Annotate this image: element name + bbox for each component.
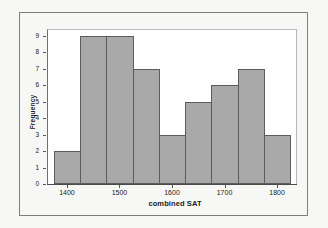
x-tick-mark [67,185,68,188]
x-axis-title: combined SAT [60,199,290,208]
x-tick-label: 1600 [152,189,192,196]
histogram-bar [159,135,186,184]
y-tick-mark [43,52,46,53]
y-tick-mark [43,36,46,37]
y-tick-label: 4 [23,114,39,121]
histogram-bar [54,151,81,184]
x-tick-mark [225,185,226,188]
histogram-bar [133,69,160,184]
y-tick-label: 2 [23,147,39,154]
histogram-bar [80,36,107,184]
y-tick-mark [43,102,46,103]
y-tick-label: 0 [23,180,39,187]
x-tick-label: 1700 [205,189,245,196]
x-tick-label: 1400 [47,189,87,196]
y-tick-label: 3 [23,131,39,138]
y-tick-mark [43,69,46,70]
y-tick-mark [43,135,46,136]
histogram-bar [238,69,265,184]
x-tick-mark [119,185,120,188]
histogram-bar [264,135,291,184]
x-tick-mark [277,185,278,188]
y-tick-mark [43,118,46,119]
x-tick-label: 1500 [99,189,139,196]
histogram-bar [106,36,133,184]
y-tick-mark [43,184,46,185]
histogram-chart: Frequency combined SAT 0123456789 140015… [0,0,328,228]
histogram-bar [211,85,238,184]
x-tick-mark [172,185,173,188]
y-tick-label: 1 [23,164,39,171]
y-tick-label: 5 [23,98,39,105]
histogram-bar [185,102,212,184]
y-tick-label: 7 [23,65,39,72]
y-tick-label: 9 [23,32,39,39]
x-tick-label: 1800 [257,189,297,196]
y-tick-mark [43,85,46,86]
y-tick-mark [43,168,46,169]
y-tick-label: 8 [23,48,39,55]
y-tick-label: 6 [23,81,39,88]
y-tick-mark [43,151,46,152]
